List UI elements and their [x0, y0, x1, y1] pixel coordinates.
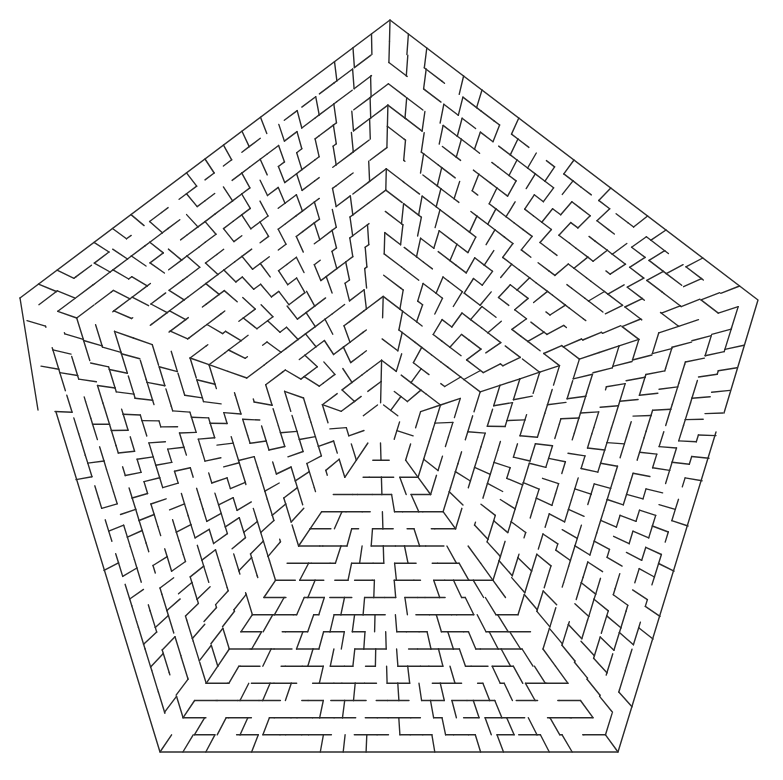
maze-puzzle [0, 0, 783, 780]
maze-walls [27, 20, 744, 752]
pentagon-maze-canvas [0, 0, 783, 780]
